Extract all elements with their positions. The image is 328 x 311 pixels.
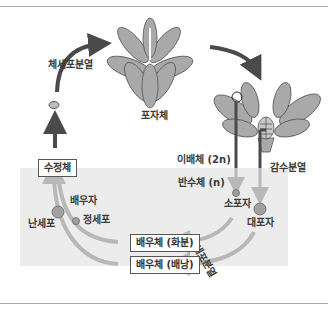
megaspore-icon (254, 203, 266, 215)
microspore-icon (233, 190, 240, 197)
arrow-to-flower-section (210, 47, 256, 70)
label-gamete: 배우자 (70, 196, 97, 206)
label-sporophyte: 포자체 (141, 111, 168, 121)
label-megaspore: 대포자 (247, 218, 274, 228)
seed-icon (49, 102, 59, 109)
gametophyte-pollen-box: 배우체 (화분) (130, 234, 200, 252)
flower-section-icon (209, 81, 325, 152)
label-diploid: 이배체 (2n) (177, 155, 231, 165)
label-meiosis: 감수분열 (270, 163, 306, 173)
label-haploid: 반수체 (n) (178, 178, 225, 188)
label-mitosis-top: 체세포분열 (48, 60, 93, 70)
gametophyte-ovule-box: 배우체 (배낭) (130, 256, 200, 274)
zygote-box: 수정체 (38, 159, 77, 177)
sporophyte-flower-icon (104, 18, 195, 108)
egg-cell-icon (52, 206, 64, 218)
label-sperm: 정세포 (83, 215, 110, 225)
sperm-cell-icon (73, 218, 80, 225)
label-microspore: 소포자 (224, 199, 251, 209)
label-egg: 난세포 (28, 219, 55, 229)
